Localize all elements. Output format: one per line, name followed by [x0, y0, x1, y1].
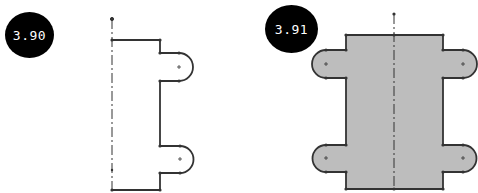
figure-3-91-sketch: [312, 12, 477, 190]
centerline-endpoint: [110, 17, 113, 20]
profile-outline: [112, 40, 194, 190]
centerline-endpoint: [392, 12, 395, 15]
figure-3-90-sketch: [110, 17, 193, 191]
sketch-canvas: [0, 0, 478, 193]
sketch-vertices: [110, 38, 181, 191]
